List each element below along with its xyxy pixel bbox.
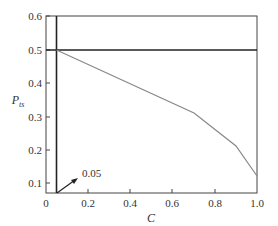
x-tick: 0.6 — [165, 197, 179, 209]
x-tick: 0.2 — [81, 197, 95, 209]
x-axis-label: C — [147, 211, 156, 225]
y-tick: 0.2 — [28, 144, 42, 156]
y-tick: 0.5 — [28, 44, 42, 56]
y-axis-label: Pts — [11, 93, 25, 109]
y-axis — [46, 16, 50, 183]
x-tick: 0.4 — [123, 197, 137, 209]
annotation-arrow — [57, 180, 75, 193]
chart: 0.6 0.5 0.4 0.3 0.2 0.1 0 0.2 0.4 0.6 0.… — [0, 0, 278, 226]
y-tick: 0.1 — [28, 177, 42, 189]
x-tick: 0.8 — [208, 197, 222, 209]
y-tick: 0.3 — [28, 111, 42, 123]
y-tick: 0.4 — [28, 77, 42, 89]
y-tick: 0.6 — [28, 10, 42, 22]
arrowhead-icon — [71, 178, 78, 184]
x-tick: 0 — [43, 197, 49, 209]
decreasing-curve — [57, 50, 258, 176]
plot-frame — [46, 16, 257, 193]
annotation-label: 0.05 — [82, 167, 102, 179]
x-tick: 1.0 — [250, 197, 264, 209]
x-axis — [88, 189, 215, 193]
